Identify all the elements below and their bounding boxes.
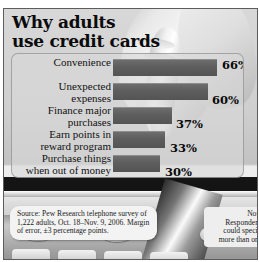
bar-label-line: Earn points in	[12, 129, 111, 141]
bar-unexpected-expenses	[113, 83, 208, 100]
bar-label: Convenience	[12, 57, 111, 69]
chart-row: Earn points in reward program 33%	[12, 129, 243, 151]
bar-label: Finance major purchases	[12, 105, 111, 128]
bar-label-line: reward program	[12, 141, 111, 153]
chart-row: Unexpected expenses 60%	[12, 81, 243, 103]
title-line-1: Why adults	[12, 13, 162, 32]
bar-label-line: Purchase things	[12, 153, 111, 165]
bar-earn-points	[113, 131, 165, 148]
bar-chart: Convenience 66% Unexpected expenses 60%	[12, 57, 243, 177]
photo-calculator-key	[12, 249, 50, 259]
bar-label: Purchase things when out of money	[12, 153, 111, 176]
photo-calculator-key	[104, 251, 142, 259]
chart-row: Purchase things when out of money 30%	[12, 153, 243, 175]
bar-label: Unexpected expenses	[12, 81, 111, 104]
bar-label-line: purchases	[12, 117, 111, 129]
bar-finance-major-purchases	[113, 107, 172, 124]
photo-calculator-key	[150, 252, 188, 259]
page-title: Why adults use credit cards	[12, 13, 162, 51]
chart-panel: Convenience 66% Unexpected expenses 60%	[11, 53, 244, 178]
bar-label-line: Finance major	[12, 105, 111, 117]
graphic-frame: Why adults use credit cards Convenience …	[3, 8, 258, 260]
bar-convenience	[113, 59, 217, 76]
infographic: Why adults use credit cards Convenience …	[0, 0, 259, 262]
bar-label-line: Convenience	[12, 57, 111, 69]
title-line-2: use credit cards	[12, 32, 162, 51]
bar-label-line: when out of money	[12, 165, 111, 177]
source-callout: Source: Pew Research telephone survey of…	[10, 206, 157, 240]
chart-row: Finance major purchases 37%	[12, 105, 243, 127]
bar-label: Earn points in reward program	[12, 129, 111, 152]
bar-value-convenience: 66%	[222, 58, 244, 72]
chart-row: Convenience 66%	[12, 57, 243, 79]
bar-value-purchase-out-of-money: 30%	[165, 165, 192, 178]
photo-calculator-key	[58, 250, 96, 259]
bar-label-line: expenses	[12, 93, 111, 105]
note-callout: Note: Respondents could specify more tha…	[204, 207, 258, 247]
bar-label-line: Unexpected	[12, 81, 111, 93]
bar-purchase-out-of-money	[113, 155, 160, 172]
